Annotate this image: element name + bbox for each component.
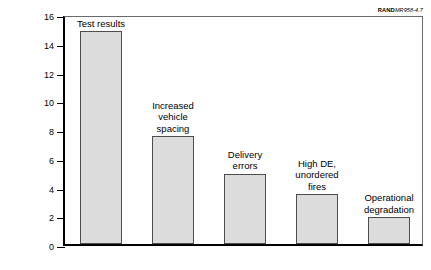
bar-label-line: Test results [77,18,125,30]
y-axis-tick-label: 6 [49,155,54,168]
y-axis-tick: 10 [57,103,65,104]
bar[interactable]: Deliveryerrors [224,174,266,244]
bar-label-line: High DE, [295,158,338,170]
y-axis-tick-label: 12 [44,69,54,82]
y-axis-tick-label: 16 [44,11,54,24]
source-credit: RANDMR958-4.7 [378,6,423,14]
y-axis-tick-label: 2 [49,212,54,225]
y-axis-tick-label: 14 [44,40,54,53]
plot-area: 0246810121416 Test resultsIncreasedvehic… [63,16,423,246]
y-axis-tick: 16 [57,17,65,18]
bar-label: High DE,unorderedfires [295,158,338,193]
y-axis-tick: 4 [57,190,65,191]
bar-label-line: Operational [364,192,414,204]
y-axis-tick: 2 [57,218,65,219]
bar[interactable]: High DE,unorderedfires [296,194,338,244]
y-axis-tick: 12 [57,75,65,76]
bar-label: Deliveryerrors [228,149,262,172]
bar[interactable]: Increasedvehiclespacing [152,136,194,244]
y-axis-tick: 6 [57,161,65,162]
bar-label-line: unordered [295,169,338,181]
bar-label: Increasedvehiclespacing [152,100,194,135]
bar[interactable]: Test results [80,31,122,244]
bar[interactable]: Operationaldegradation [368,217,410,244]
bar-label-line: spacing [152,123,194,135]
bar-label-line: fires [295,181,338,193]
bar-label-line: Delivery [228,149,262,161]
y-axis-tick-label: 10 [44,97,54,110]
bar-label-line: degradation [364,204,414,216]
y-axis-tick-label: 8 [49,126,54,139]
y-axis-tick: 8 [57,132,65,133]
y-axis-tick: 0 [57,247,65,248]
bar-label: Operationaldegradation [364,192,414,215]
y-axis-tick-label: 4 [49,184,54,197]
bar-label-line: errors [228,160,262,172]
chart-figure: RANDMR958-4.7 Armored vehicle kills per … [0,0,431,270]
bar-label-line: vehicle [152,111,194,123]
bar-label-line: Increased [152,100,194,112]
y-axis-tick-label: 0 [49,241,54,254]
credit-report: MR958-4.7 [395,7,423,13]
y-axis-tick: 14 [57,46,65,47]
credit-publisher: RAND [378,7,395,13]
bar-label: Test results [77,18,125,30]
